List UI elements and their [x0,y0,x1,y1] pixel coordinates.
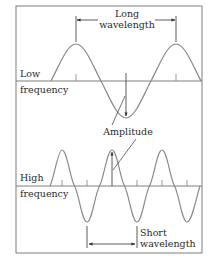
long-wavelength-label-line1: Long [115,8,139,19]
short-wavelength-label-line1: Short [140,227,167,238]
amplitude-label: Amplitude [102,126,153,137]
low-frequency-label-line2: frequency [20,84,69,95]
low-frequency-label-line1: Low [20,68,40,79]
high-frequency-label-line1: High [20,172,44,183]
high-frequency-panel: High frequency Short wavelength [16,139,202,249]
low-amplitude-leader [112,96,125,125]
long-wavelength-label-line2: wavelength [99,19,155,30]
wave-frequency-diagram: Long wavelength Low frequency Amplitude … [0,0,209,266]
high-frequency-label-line2: frequency [20,188,69,199]
high-amplitude-leader [113,139,136,170]
short-wavelength-label-line2: wavelength [140,238,196,249]
low-frequency-panel: Long wavelength Low frequency [16,8,202,125]
